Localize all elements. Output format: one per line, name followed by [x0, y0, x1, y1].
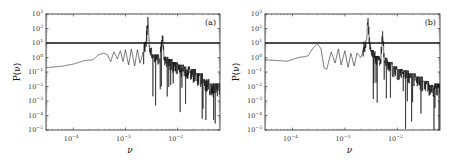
x-tick-label: 10−2 — [168, 134, 183, 143]
y-tick-label: 101 — [251, 38, 262, 47]
y-tick-label: 100 — [32, 53, 43, 62]
x-tick-label: 10−3 — [116, 134, 131, 143]
y-tick-label: 10−4 — [247, 111, 262, 120]
spectrum-line — [265, 18, 440, 133]
y-tick-label: 10−2 — [28, 82, 43, 91]
y-tick-label: 10−3 — [247, 96, 262, 105]
x-axis-title: ν — [127, 145, 133, 155]
x-tick-label: 10−4 — [64, 134, 79, 143]
panel-label: (b) — [425, 18, 436, 27]
y-tick-label: 103 — [251, 9, 262, 18]
y-tick-label: 10−1 — [247, 67, 262, 76]
power-spectrum-figure: 10310210110010−110−210−310−410−510−410−3… — [0, 0, 452, 163]
y-tick-label: 100 — [251, 53, 262, 62]
y-tick-label: 102 — [32, 24, 43, 33]
y-tick-label: 10−5 — [28, 125, 43, 134]
plot-frame — [265, 14, 440, 130]
y-tick-label: 102 — [251, 24, 262, 33]
x-tick-label: 10−3 — [335, 134, 350, 143]
x-tick-label: 10−2 — [388, 134, 403, 143]
panel-a-plot: 10310210110010−110−210−310−410−510−410−3… — [12, 9, 220, 155]
x-axis-title: ν — [347, 145, 353, 155]
y-tick-label: 10−1 — [28, 67, 43, 76]
panel-b-plot: 10310210110010−110−210−310−410−510−410−3… — [231, 9, 440, 155]
y-tick-label: 10−4 — [28, 111, 43, 120]
y-axis-title: P(ν) — [231, 63, 241, 82]
y-tick-label: 10−3 — [28, 96, 43, 105]
y-tick-label: 103 — [32, 9, 43, 18]
y-axis-title: P(ν) — [12, 63, 22, 82]
y-tick-label: 10−5 — [247, 125, 262, 134]
x-tick-label: 10−4 — [283, 134, 298, 143]
y-tick-label: 10−2 — [247, 82, 262, 91]
y-tick-label: 101 — [32, 38, 43, 47]
panel-label: (a) — [205, 18, 216, 27]
spectrum-line — [46, 17, 220, 124]
